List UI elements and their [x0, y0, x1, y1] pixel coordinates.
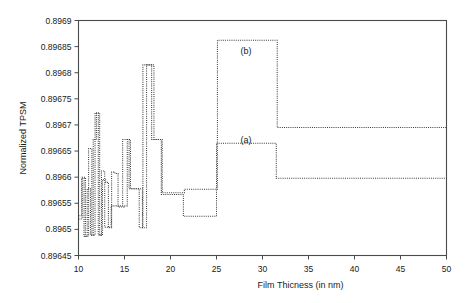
x-axis-title: Film Thicness (in nm): [258, 280, 344, 290]
x-tick-label: 30: [258, 264, 268, 274]
x-tick-label: 20: [166, 264, 176, 274]
chart-canvas: 0.896450.89650.896550.89660.896650.89670…: [0, 0, 467, 303]
series-annotation-b: (b): [240, 46, 251, 56]
x-tick-label: 50: [442, 264, 452, 274]
y-tick-label: 0.89665: [41, 146, 72, 156]
x-tick-label: 45: [396, 264, 406, 274]
y-tick-label: 0.89645: [41, 251, 72, 261]
y-axis-title: Normalized TPSM: [18, 102, 28, 175]
x-tick-label: 40: [350, 264, 360, 274]
y-tick-label: 0.8968: [46, 68, 72, 78]
y-tick-label: 0.8965: [46, 224, 72, 234]
x-tick-label: 35: [304, 264, 314, 274]
x-tick-label: 10: [74, 264, 84, 274]
series-annotation-a: (a): [240, 135, 251, 145]
y-tick-label: 0.8967: [46, 120, 72, 130]
plot-frame: [79, 21, 447, 256]
x-tick-label: 25: [212, 264, 222, 274]
figure-container: 0.896450.89650.896550.89660.896650.89670…: [0, 0, 467, 303]
x-tick-label: 15: [120, 264, 130, 274]
y-tick-label: 0.89655: [41, 198, 72, 208]
y-tick-label: 0.8966: [46, 172, 72, 182]
y-tick-label: 0.8969: [46, 16, 72, 26]
y-tick-label: 0.89685: [41, 42, 72, 52]
data-series-b: [79, 40, 447, 236]
data-series-a: [79, 65, 447, 236]
y-tick-label: 0.89675: [41, 94, 72, 104]
